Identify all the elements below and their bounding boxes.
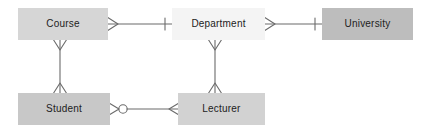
entity-label-student: Student	[46, 104, 82, 114]
optional-zero-circle	[119, 105, 127, 113]
entity-course[interactable]: Course	[18, 8, 108, 40]
connector-student-lecturer	[109, 103, 179, 115]
crowsfoot-many-department	[264, 17, 275, 31]
er-diagram-canvas: Course Department University Student Lec…	[0, 0, 431, 132]
entity-university[interactable]: University	[322, 8, 413, 40]
connector-course-student	[53, 39, 67, 94]
crowsfoot-many-student	[109, 103, 119, 115]
entity-label-university: University	[345, 19, 391, 29]
connector-department-university	[264, 17, 322, 31]
crowsfoot-many-course-down	[53, 39, 67, 50]
crowsfoot-many-course	[107, 17, 118, 31]
entity-student[interactable]: Student	[18, 93, 110, 125]
entity-label-department: Department	[191, 19, 245, 29]
entity-department[interactable]: Department	[172, 8, 265, 40]
entity-label-lecturer: Lecturer	[202, 104, 240, 114]
crowsfoot-many-department-down	[208, 39, 222, 50]
connector-department-lecturer	[208, 39, 222, 94]
entity-lecturer[interactable]: Lecturer	[178, 93, 265, 125]
connector-course-department	[107, 17, 172, 31]
entity-label-course: Course	[46, 19, 79, 29]
